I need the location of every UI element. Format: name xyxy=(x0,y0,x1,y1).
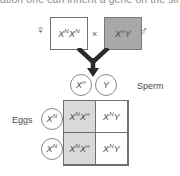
punnett-grid: XNXn XNY XNXn XNY xyxy=(63,100,129,166)
male-parent-box: XnY xyxy=(104,17,142,50)
punnett-cell-r2c2: XNY xyxy=(95,132,128,165)
egg-allele-sup-1: N xyxy=(53,112,58,119)
sperm-gamete-genotype-2: Y xyxy=(103,80,109,90)
punnett-cell-r2c1: XNXn xyxy=(63,132,96,165)
punnett-genotype-r2c2: XNY xyxy=(103,144,120,154)
punnett-cell-r1c2: XNY xyxy=(95,100,128,133)
r2c2-sup-1: N xyxy=(109,142,114,149)
punnett-genotype-r2c1: XNXn xyxy=(69,144,90,154)
male-parent-genotype: XnY xyxy=(115,29,131,39)
sperm-gamete-circle-2: Y xyxy=(95,74,117,96)
eggs-label: Eggs xyxy=(12,115,33,125)
r1c2-sup-1: N xyxy=(109,110,114,117)
sperm-allele-sup-1: n xyxy=(82,78,86,85)
r1c1-sup-2: n xyxy=(86,110,90,117)
sperm-gamete-genotype-1: Xn xyxy=(76,80,86,90)
female-parent-genotype: XNXN xyxy=(58,29,80,39)
female-allele-sup-1: N xyxy=(64,27,69,34)
male-symbol-icon: ♂ xyxy=(139,25,148,37)
female-allele-sup-2: N xyxy=(75,27,80,34)
punnett-square-diagram: ation one can inherit a gene on the sing… xyxy=(0,0,180,176)
r2c1-sup-1: N xyxy=(75,142,80,149)
egg-gamete-genotype-2: XN xyxy=(47,144,58,154)
egg-gamete-circle-2: XN xyxy=(41,138,63,160)
female-parent-box: XNXN xyxy=(50,17,88,50)
punnett-genotype-r1c2: XNY xyxy=(103,112,120,122)
punnett-cell-r1c1: XNXn xyxy=(63,100,96,133)
cut-off-caption-text: ation one can inherit a gene on the sing… xyxy=(0,0,180,6)
sperm-gamete-circle-1: Xn xyxy=(70,74,92,96)
male-allele-sup-1: n xyxy=(121,27,125,34)
egg-gamete-circle-1: XN xyxy=(41,108,63,130)
female-symbol-icon: ♀ xyxy=(36,24,45,36)
egg-gamete-genotype-1: XN xyxy=(47,114,58,124)
punnett-genotype-r1c1: XNXn xyxy=(69,112,90,122)
r2c1-sup-2: n xyxy=(86,142,90,149)
sperm-label: Sperm xyxy=(137,81,164,91)
egg-allele-sup-2: N xyxy=(53,142,58,149)
r1c1-sup-1: N xyxy=(75,110,80,117)
cross-operator: × xyxy=(92,29,97,39)
